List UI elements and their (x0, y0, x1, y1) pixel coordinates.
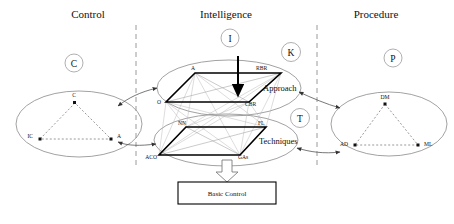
diagram-canvas: Control Intelligence Procedure C I K T (0, 0, 454, 224)
node-label-a-approach: A (191, 65, 195, 71)
connector-group (118, 88, 340, 153)
basic-control-group: Basic Control (178, 160, 276, 204)
node-label-ad: AD (340, 141, 348, 147)
approach-parallelogram-group: A RBR O CBR Approach (157, 65, 297, 107)
node-dot-a-control (110, 138, 113, 141)
node-dot-c (73, 101, 76, 104)
headers-group: Control Intelligence Procedure (71, 8, 398, 20)
techniques-parallelogram-group: NN FL ACO GAs Techniques (145, 120, 297, 160)
node-dot-ic (39, 138, 42, 141)
node-label-aco: ACO (145, 154, 157, 160)
badge-group: C I K T P (65, 29, 402, 128)
connector-techniques-procedure (297, 148, 340, 153)
hollow-down-arrow (216, 160, 238, 182)
badge-p: P (384, 49, 402, 67)
node-label-rbr: RBR (256, 65, 267, 71)
node-label-fl: FL (258, 120, 265, 126)
node-label-ic: IC (27, 133, 33, 139)
node-label-cbr: CBR (245, 101, 256, 107)
node-label-o: O (157, 99, 161, 105)
basic-control-label: Basic Control (208, 190, 247, 198)
procedure-triangle (355, 104, 418, 145)
badge-i: I (221, 29, 239, 47)
node-dot-ml (417, 144, 420, 147)
node-dot-ad (354, 144, 357, 147)
control-ellipse (16, 91, 142, 157)
badge-t: T (291, 109, 310, 128)
node-label-ml: ML (424, 141, 433, 147)
node-label-dm: DM (380, 94, 389, 100)
node-dot-dm (384, 103, 387, 106)
connector-control-techniques (118, 142, 156, 145)
header-procedure: Procedure (354, 8, 399, 20)
badge-c-letter: C (71, 59, 77, 69)
diagram-svg: Control Intelligence Procedure C I K T (0, 0, 454, 224)
badge-t-letter: T (297, 114, 303, 124)
techniques-group-label: Techniques (259, 136, 298, 146)
badge-k-letter: K (288, 48, 295, 58)
procedure-ellipse-group: DM AD ML (331, 92, 447, 156)
badge-p-letter: P (390, 54, 395, 64)
node-label-c: C (72, 92, 76, 98)
control-ellipse-group: C IC A (16, 91, 142, 157)
node-label-nn: NN (178, 120, 186, 126)
control-triangle (40, 103, 111, 139)
techniques-diagonals (159, 127, 266, 155)
header-control: Control (71, 8, 105, 20)
node-label-gas: GAs (238, 154, 248, 160)
header-intelligence: Intelligence (200, 8, 252, 20)
connector-approach-procedure (299, 92, 340, 108)
badge-i-letter: I (228, 34, 231, 44)
badge-c: C (65, 54, 83, 72)
badge-k: K (282, 43, 301, 62)
node-label-a-control: A (117, 133, 121, 139)
approach-group-label: Approach (263, 83, 297, 93)
connector-control-approach (118, 88, 157, 106)
